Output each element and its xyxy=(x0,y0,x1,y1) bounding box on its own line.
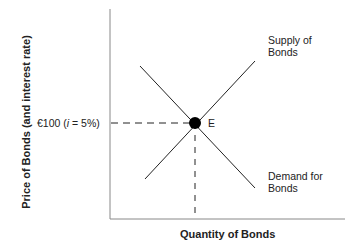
price-label: €100 (i = 5%) xyxy=(37,117,100,129)
demand-label-line1: Demand for xyxy=(268,170,323,182)
x-axis-label: Quantity of Bonds xyxy=(180,228,275,240)
price-label-suffix: = 5%) xyxy=(69,117,100,129)
equilibrium-point xyxy=(189,117,201,129)
supply-label-line1: Supply of xyxy=(268,34,312,46)
supply-label: Supply of Bonds xyxy=(268,34,312,58)
equilibrium-label: E xyxy=(208,117,215,129)
y-axis-label: Price of Bonds (and interest rate) xyxy=(20,35,32,209)
demand-label: Demand for Bonds xyxy=(268,170,323,194)
supply-label-line2: Bonds xyxy=(268,46,312,58)
demand-label-line2: Bonds xyxy=(268,182,323,194)
price-label-prefix: €100 ( xyxy=(37,117,67,129)
